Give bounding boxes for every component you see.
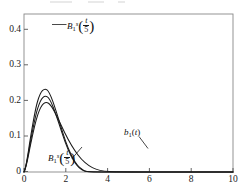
curve-label-bspline-bottom: B1s(t5) [48,149,75,167]
y-tick-label-2: 0.2 [0,96,21,106]
y-tick-label-1: 0.3 [0,60,21,70]
curve-label-bspline-top: B1s(t5) [67,17,94,35]
x-tick-label-4: 8 [185,175,197,185]
x-tick-label-0: 0 [18,175,30,185]
figure-container: 0.4 0.3 0.2 0.1 0 0 2 4 6 8 10 B1s(t5) B… [0,0,244,196]
y-tick-label-3: 0.1 [0,131,21,141]
x-tick-label-5: 10 [226,175,240,185]
curve-label-b1: b1(t) [124,128,140,138]
bspline-close-paren-bottom: ) [70,150,75,166]
plot-canvas [0,0,244,196]
b1-close-paren: ) [137,127,140,137]
bspline-close-paren-top: ) [89,18,94,34]
x-tick-label-2: 4 [102,175,114,185]
y-tick-label-0: 0.4 [0,25,21,35]
x-tick-label-1: 2 [60,175,72,185]
x-tick-label-3: 6 [143,175,155,185]
